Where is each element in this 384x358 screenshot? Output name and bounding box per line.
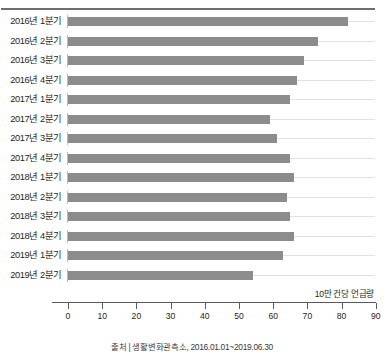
chart-bar xyxy=(68,115,270,124)
chart-bar-row: 2016년 3분기 xyxy=(0,51,384,71)
chart-bar xyxy=(68,56,304,65)
x-axis-tickmark xyxy=(307,303,308,309)
chart-title-clip xyxy=(0,0,384,7)
x-axis-tickmark xyxy=(68,303,69,309)
x-axis-tickmark xyxy=(136,303,137,309)
chart-bar-row: 2016년 4분기 xyxy=(0,71,384,91)
chart-bar xyxy=(68,134,277,143)
x-axis-tick-label: 70 xyxy=(295,311,319,321)
y-axis-tick-label: 2018년 4분기 xyxy=(0,227,62,247)
chart-bar-row: 2019년 2분기 xyxy=(0,266,384,286)
header-divider xyxy=(1,8,375,10)
x-axis-tick-label: 80 xyxy=(330,311,354,321)
chart-plot-area: 2016년 1분기2016년 2분기2016년 3분기2016년 4분기2017… xyxy=(0,12,384,290)
x-axis-label: 10만 건당 언급량 xyxy=(315,287,374,299)
y-axis-tick-label: 2017년 3분기 xyxy=(0,129,62,149)
chart-bar xyxy=(68,154,290,163)
y-axis-tick-label: 2017년 2분기 xyxy=(0,110,62,130)
x-axis-tickmark xyxy=(273,303,274,309)
x-axis-tickmark xyxy=(171,303,172,309)
chart-bar xyxy=(68,271,253,280)
chart-bar-row: 2017년 3분기 xyxy=(0,129,384,149)
x-axis-tick-label: 0 xyxy=(56,311,80,321)
y-axis-tick-label: 2018년 3분기 xyxy=(0,207,62,227)
x-axis-tick-label: 50 xyxy=(227,311,251,321)
source-note: 출처 | 생활변화관측소, 2016.01.01~2019.06.30 xyxy=(0,340,384,352)
y-axis-tick-label: 2016년 3분기 xyxy=(0,51,62,71)
x-axis-line xyxy=(52,302,376,303)
chart-bar-row: 2018년 2분기 xyxy=(0,188,384,208)
x-axis-tick-label: 40 xyxy=(193,311,217,321)
y-axis-tick-label: 2018년 2분기 xyxy=(0,188,62,208)
chart-bar-row: 2017년 4분기 xyxy=(0,149,384,169)
y-axis-tick-label: 2016년 2분기 xyxy=(0,32,62,52)
y-axis-tick-label: 2017년 1분기 xyxy=(0,90,62,110)
x-axis-tick-label: 10 xyxy=(90,311,114,321)
y-axis-tick-label: 2016년 4분기 xyxy=(0,71,62,91)
chart-bar-row: 2016년 1분기 xyxy=(0,12,384,32)
x-axis-tick-label: 20 xyxy=(124,311,148,321)
x-axis-tickmark xyxy=(205,303,206,309)
x-axis-tickmark xyxy=(102,303,103,309)
x-axis-tick-label: 30 xyxy=(159,311,183,321)
chart-bar xyxy=(68,232,294,241)
chart-bar-row: 2018년 4분기 xyxy=(0,227,384,247)
chart-bar xyxy=(68,37,318,46)
x-axis-tick-label: 60 xyxy=(261,311,285,321)
chart-bar xyxy=(68,173,294,182)
chart-bar-row: 2018년 1분기 xyxy=(0,168,384,188)
chart-bar-row: 2016년 2분기 xyxy=(0,32,384,52)
x-axis-tickmark xyxy=(376,303,377,309)
chart-bar-row: 2019년 1분기 xyxy=(0,246,384,266)
x-axis-tick-label: 90 xyxy=(364,311,384,321)
chart-bar-row: 2018년 3분기 xyxy=(0,207,384,227)
chart-bar xyxy=(68,76,297,85)
chart-bar xyxy=(68,251,283,260)
chart-bar-row: 2017년 2분기 xyxy=(0,110,384,130)
y-axis-tick-label: 2016년 1분기 xyxy=(0,12,62,32)
y-axis-tick-label: 2018년 1분기 xyxy=(0,168,62,188)
chart-bar-row: 2017년 1분기 xyxy=(0,90,384,110)
y-axis-tick-label: 2019년 1분기 xyxy=(0,246,62,266)
chart-bar xyxy=(68,95,290,104)
x-axis-tickmark xyxy=(239,303,240,309)
chart-bar xyxy=(68,193,287,202)
x-axis-tickmark xyxy=(342,303,343,309)
y-axis-tick-label: 2019년 2분기 xyxy=(0,266,62,286)
chart-bar xyxy=(68,212,290,221)
y-axis-tick-label: 2017년 4분기 xyxy=(0,149,62,169)
chart-bar xyxy=(68,17,348,26)
